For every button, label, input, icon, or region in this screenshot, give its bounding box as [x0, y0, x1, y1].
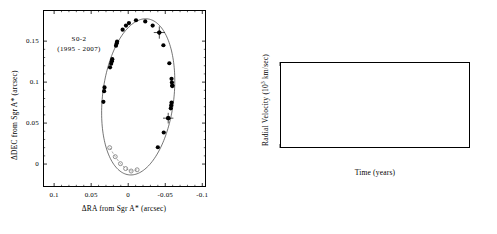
orbit-xtick-3: -0.05 — [157, 192, 173, 199]
orbit-xtick-4: -0.1 — [196, 192, 208, 199]
orbit-annotation-star: S0-2 — [57, 35, 101, 45]
rv-plot-area — [250, 0, 497, 234]
orbit-xtick-0: 0.1 — [49, 192, 58, 199]
orbit-ytick-2: 0.05 — [26, 120, 39, 127]
orbit-xaxis-title: ΔRA from Sgr A* (arcsec) — [82, 204, 167, 213]
orbit-xtick-1: 0.05 — [85, 192, 98, 199]
orbit-annotation: S0-2 (1995 - 2007) — [57, 35, 101, 54]
orbit-ytick-3: 0 — [35, 161, 39, 168]
orbit-panel: S0-2 (1995 - 2007) ΔRA from Sgr A* (arcs… — [0, 0, 250, 234]
orbit-yaxis-title: ΔDEC from Sgr A* (arcsec) — [10, 70, 19, 160]
orbit-ytick-1: 0.1 — [30, 79, 39, 86]
orbit-annotation-years: (1995 - 2007) — [57, 45, 101, 55]
orbit-xtick-2: 0 — [126, 192, 130, 199]
rv-xaxis-title: Time (years) — [355, 168, 396, 177]
radial-velocity-panel: Time (years) Radial Velocity (103 km/sec… — [250, 0, 497, 234]
orbit-plot-area — [0, 0, 250, 234]
figure-s02-orbit-and-radial-velocity: S0-2 (1995 - 2007) ΔRA from Sgr A* (arcs… — [0, 0, 497, 234]
orbit-ytick-0: 0.15 — [26, 38, 39, 45]
rv-yaxis-title: Radial Velocity (103 km/sec) — [261, 54, 270, 146]
